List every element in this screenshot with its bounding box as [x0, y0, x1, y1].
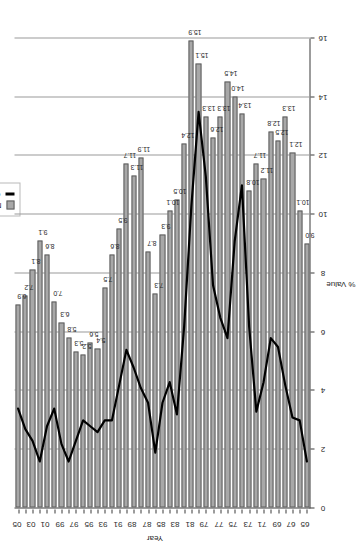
value-tick-label: 12	[315, 151, 331, 160]
value-tick-mark	[310, 331, 314, 332]
legend-label-nhe: National Health Expenditures	[0, 200, 1, 209]
value-tick-label: 6	[315, 327, 331, 336]
year-tick-mark	[75, 509, 76, 513]
year-tick-label: 01	[37, 520, 53, 529]
legend-item-line: CPI(U)	[0, 189, 14, 198]
year-tick-mark	[126, 509, 127, 513]
value-tick-label: 8	[315, 269, 331, 278]
bar-value-label: 11.9	[138, 146, 150, 153]
value-tick-mark	[310, 96, 314, 97]
bar-value-label: 15.9	[188, 28, 201, 35]
year-tick-label: 89	[124, 520, 140, 529]
year-tick-label: 95	[80, 520, 96, 529]
bar-value-label: 13.3	[202, 105, 215, 112]
bar-value-label: 14.5	[224, 70, 237, 77]
year-tick-label: 73	[239, 520, 255, 529]
year-tick-mark	[32, 509, 33, 513]
bar-value-label: 12.5	[275, 128, 288, 135]
bar-value-label: 8.1	[31, 258, 40, 265]
year-tick-label: 93	[95, 520, 111, 529]
year-tick-mark	[169, 509, 170, 513]
year-tick-label: 99	[51, 520, 67, 529]
year-tick-mark	[61, 509, 62, 513]
year-tick-mark	[111, 509, 112, 513]
bar-value-label: 11.2	[260, 167, 272, 174]
year-tick-mark	[155, 509, 156, 513]
year-tick-mark	[18, 509, 19, 513]
bar-value-label: 9.1	[38, 228, 47, 235]
year-tick-mark	[140, 509, 141, 513]
bar-value-label: 13.4	[238, 102, 251, 109]
bar-value-label: 11.3	[130, 164, 142, 171]
cpi-line-series	[14, 38, 310, 508]
year-tick-mark	[191, 509, 192, 513]
year-tick-mark	[46, 509, 47, 513]
value-tick-mark	[310, 507, 314, 508]
year-tick-label: 05	[8, 520, 24, 529]
bar-value-label: 13.3	[282, 105, 295, 112]
year-tick-mark	[249, 509, 250, 513]
year-tick-mark	[285, 509, 286, 513]
year-tick-mark	[83, 509, 84, 513]
bar-swatch-icon	[6, 200, 14, 209]
bar-value-label: 12.1	[289, 140, 302, 147]
year-tick-mark	[241, 509, 242, 513]
bar-value-label: 9.0	[305, 231, 314, 238]
value-tick-mark	[310, 390, 314, 391]
value-tick-label: 10	[315, 210, 331, 219]
bar-value-label: 5.3	[74, 340, 83, 347]
bar-value-label: 8.7	[146, 240, 155, 247]
bar-value-label: 6.3	[60, 310, 69, 317]
year-tick-mark	[213, 509, 214, 513]
year-tick-mark	[148, 509, 149, 513]
year-tick-label: 83	[167, 520, 183, 529]
year-tick-mark	[90, 509, 91, 513]
value-tick-mark	[310, 155, 314, 156]
year-tick-mark	[306, 509, 307, 513]
plot-area: 9.010.112.113.312.512.811.211.710.813.41…	[14, 38, 310, 508]
legend-item-bars: National Health Expenditures	[0, 200, 14, 209]
year-tick-mark	[104, 509, 105, 513]
bar-value-label: 11.7	[123, 152, 135, 159]
bar-value-label: 8.6	[45, 243, 54, 250]
year-tick-label: 79	[196, 520, 212, 529]
value-tick-label: 16	[315, 34, 331, 43]
bar-value-label: 7.0	[53, 290, 62, 297]
year-tick-mark	[227, 509, 228, 513]
year-tick-mark	[220, 509, 221, 513]
year-tick-mark	[299, 509, 300, 513]
bar-value-label: 12.8	[267, 120, 280, 127]
chart-canvas: National Health Expenditures CPI(U) 9.01…	[0, 0, 361, 554]
bar-value-label: 7.5	[103, 275, 112, 282]
year-tick-label: 75	[225, 520, 241, 529]
bar-value-label: 10.1	[166, 199, 179, 206]
year-tick-mark	[184, 509, 185, 513]
bar-value-label: 12.4	[181, 131, 194, 138]
bar-value-label: 15.1	[195, 52, 208, 59]
line-swatch-icon	[5, 192, 14, 195]
year-tick-mark	[256, 509, 257, 513]
category-axis-title: Year	[146, 533, 162, 542]
year-tick-mark	[205, 509, 206, 513]
year-tick-mark	[162, 509, 163, 513]
value-tick-mark	[310, 213, 314, 214]
year-tick-mark	[198, 509, 199, 513]
year-tick-mark	[292, 509, 293, 513]
bar-value-label: 7.2	[24, 284, 33, 291]
bar-value-label: 13.3	[217, 105, 230, 112]
year-tick-label: 77	[210, 520, 226, 529]
year-tick-mark	[278, 509, 279, 513]
bar-value-label: 12.6	[210, 125, 223, 132]
year-tick-mark	[133, 509, 134, 513]
year-tick-mark	[97, 509, 98, 513]
bar-value-label: 10.8	[246, 178, 259, 185]
value-tick-mark	[310, 37, 314, 38]
value-tick-label: 2	[315, 445, 331, 454]
year-tick-label: 87	[138, 520, 154, 529]
year-tick-label: 69	[268, 520, 284, 529]
value-tick-mark	[310, 272, 314, 273]
value-tick-mark	[310, 448, 314, 449]
bar-value-label: 14.0	[231, 84, 244, 91]
year-tick-mark	[54, 509, 55, 513]
value-axis-title: % Value	[326, 280, 355, 289]
